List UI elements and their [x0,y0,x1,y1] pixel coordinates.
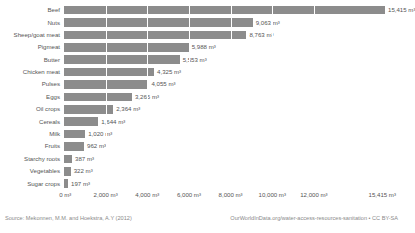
footer-source-text: Source: Mekonnen, M.M. and Hoekstra, A.Y… [5,216,132,222]
bar[interactable] [64,117,98,126]
bar-row[interactable]: Starchy roots387 m³ [64,153,385,165]
bar[interactable] [64,93,132,102]
bar[interactable] [64,31,246,40]
bar-value-label: 8,763 m³ [249,32,273,38]
x-axis-tick-label: 0 m³ [59,192,71,198]
x-axis-tick-label: 15,415 m³ [369,192,396,198]
bar-category-label: Butter [44,57,60,63]
x-axis: 0 m³2,000 m³4,000 m³6,000 m³8,000 m³10,0… [64,190,385,204]
bar-row[interactable]: Butter5,553 m³ [64,54,385,66]
bar-category-label: Oil crops [36,106,60,112]
bar-value-label: 2,364 m³ [116,106,140,112]
x-axis-tick-label: 10,000 m³ [259,192,286,198]
bar-rows: Beef15,415 m³Nuts9,063 m³Sheep/goat meat… [64,4,385,190]
bar-category-label: Starchy roots [24,156,60,162]
bar-category-label: Cereals [39,119,60,125]
bar-category-label: Pulses [42,81,60,87]
bar-value-label: 4,055 m³ [151,81,175,87]
bar-value-label: 387 m³ [75,156,94,162]
bar-value-label: 1,644 m³ [101,119,125,125]
x-axis-tick-label: 12,000 m³ [300,192,327,198]
bar[interactable] [64,68,154,77]
bar-category-label: Pigmeat [38,44,60,50]
bar-category-label: Sheep/goat meat [14,32,60,38]
bar-category-label: Nuts [47,20,60,26]
bar-row[interactable]: Nuts9,063 m³ [64,16,385,28]
bar-category-label: Vegetables [30,168,60,174]
bar[interactable] [64,43,189,52]
bar[interactable] [64,155,72,164]
bar-category-label: Chicken meat [23,69,60,75]
bar-row[interactable]: Pigmeat5,988 m³ [64,41,385,53]
bar-value-label: 9,063 m³ [256,20,280,26]
bar-category-label: Beef [47,7,60,13]
bar-value-label: 15,415 m³ [388,7,415,13]
bar[interactable] [64,105,113,114]
footer-credit-text[interactable]: OurWorldInData.org/water-access-resource… [230,216,398,222]
bar-value-label: 962 m³ [87,143,106,149]
bar-value-label: 4,325 m³ [157,69,181,75]
bar-row[interactable]: Milk1,020 m³ [64,128,385,140]
bar[interactable] [64,130,85,139]
plot-area: Beef15,415 m³Nuts9,063 m³Sheep/goat meat… [64,4,385,190]
bar-row[interactable]: Cereals1,644 m³ [64,116,385,128]
bar-value-label: 1,020 m³ [88,131,112,137]
bar-row[interactable]: Chicken meat4,325 m³ [64,66,385,78]
gridline [385,4,386,190]
bar-value-label: 5,553 m³ [183,57,207,63]
bar-value-label: 3,265 m³ [135,94,159,100]
bar-row[interactable]: Pulses4,055 m³ [64,78,385,90]
chart-footer: Source: Mekonnen, M.M. and Hoekstra, A.Y… [0,214,404,230]
bar-category-label: Sugar crops [27,181,60,187]
bar-row[interactable]: Fruits962 m³ [64,140,385,152]
bar-row[interactable]: Beef15,415 m³ [64,4,385,16]
bar-row[interactable]: Eggs3,265 m³ [64,91,385,103]
bar-value-label: 322 m³ [74,168,93,174]
bar-category-label: Fruits [45,143,60,149]
bar[interactable] [64,18,253,27]
bar-row[interactable]: Oil crops2,364 m³ [64,103,385,115]
bar[interactable] [64,55,180,64]
bar-value-label: 197 m³ [71,181,90,187]
x-axis-tick-label: 2,000 m³ [94,192,118,198]
bar-row[interactable]: Vegetables322 m³ [64,165,385,177]
x-axis-tick-label: 6,000 m³ [177,192,201,198]
bar[interactable] [64,179,68,188]
bar[interactable] [64,80,148,89]
bar-row[interactable]: Sheep/goat meat8,763 m³ [64,29,385,41]
x-axis-tick-label: 4,000 m³ [135,192,159,198]
bar-row[interactable]: Sugar crops197 m³ [64,177,385,189]
bar-category-label: Milk [49,131,60,137]
x-axis-tick-label: 8,000 m³ [219,192,243,198]
bar[interactable] [64,142,84,151]
bar[interactable] [64,167,71,176]
bar[interactable] [64,6,385,15]
bar-category-label: Eggs [46,94,60,100]
bar-value-label: 5,988 m³ [192,44,216,50]
